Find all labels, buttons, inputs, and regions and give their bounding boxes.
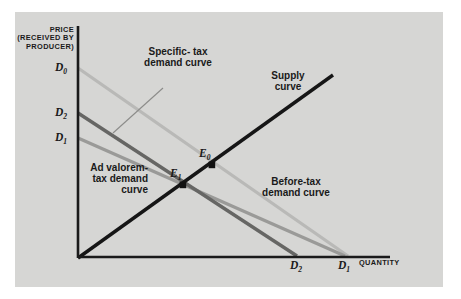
d1-y-sub: 1 bbox=[63, 137, 67, 146]
economics-diagram-figure: PRICE (RECEIVED BY PRODUCER) QUANTITY D0… bbox=[0, 0, 461, 299]
y-intercept-label-d1: D1 bbox=[55, 131, 67, 147]
supply-curve-annotation: Supply curve bbox=[253, 70, 323, 92]
specific-tax-annotation: Specific- tax demand curve bbox=[123, 46, 233, 68]
e0-sub: 0 bbox=[207, 153, 211, 162]
y-intercept-label-d2: D2 bbox=[55, 106, 67, 122]
equilibrium-label-e1: E1 bbox=[170, 167, 181, 183]
y-axis-title: PRICE (RECEIVED BY PRODUCER) bbox=[12, 26, 74, 51]
d1-x-sub: 1 bbox=[346, 265, 350, 274]
ad-valorem-annotation: Ad valorem- tax demand curve bbox=[58, 162, 148, 196]
y-intercept-label-d0: D0 bbox=[55, 61, 67, 77]
e0-text: E bbox=[199, 147, 207, 159]
specific-tax-leader-line bbox=[113, 88, 163, 133]
before-tax-annotation: Before-tax demand curve bbox=[241, 176, 351, 198]
d2-x-sub: 2 bbox=[298, 265, 302, 274]
x-axis-title: QUANTITY bbox=[359, 259, 429, 267]
equilibrium-label-e0: E0 bbox=[199, 147, 210, 163]
d0-y-sub: 0 bbox=[63, 67, 67, 76]
x-intercept-label-d2: D2 bbox=[290, 259, 302, 275]
e1-text: E bbox=[170, 167, 178, 179]
e1-sub: 1 bbox=[178, 173, 182, 182]
x-intercept-label-d1: D1 bbox=[338, 259, 350, 275]
d2-y-sub: 2 bbox=[63, 112, 67, 121]
